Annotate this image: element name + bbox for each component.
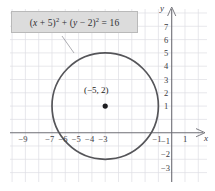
x-tick--4: −4 xyxy=(85,135,94,144)
y-tick--2: −2 xyxy=(161,150,170,159)
x-tick--6: −6 xyxy=(59,135,68,144)
y-axis-label: y xyxy=(160,4,164,13)
x-tick-1: 1 xyxy=(183,135,187,144)
y-tick-6: 6 xyxy=(164,36,168,45)
grid-vertical-lines xyxy=(12,9,198,182)
y-tick-1: 1 xyxy=(164,102,168,111)
y-tick-7: 7 xyxy=(164,23,168,32)
y-tick--3: −3 xyxy=(161,164,170,173)
label-leader-line xyxy=(62,36,74,53)
x-axis-label: x xyxy=(204,134,208,143)
x-tick--3: −3 xyxy=(98,135,107,144)
equation-label-box: (x + 5)2 + (y − 2)2 = 16 xyxy=(11,11,138,33)
y-tick--1: −1 xyxy=(161,137,170,146)
equation-label-text: (x + 5)2 + (y − 2)2 = 16 xyxy=(30,16,119,28)
y-tick-2: 2 xyxy=(164,89,168,98)
x-axis xyxy=(10,129,205,137)
circle-graph-figure: (x + 5)2 + (y − 2)2 = 16 (−5, 2) y x −9 … xyxy=(0,0,215,191)
y-tick-3: 3 xyxy=(164,76,168,85)
x-tick--5: −5 xyxy=(72,135,81,144)
center-point-dot xyxy=(103,104,108,109)
center-point-label: (−5, 2) xyxy=(84,86,109,95)
y-tick-5: 5 xyxy=(164,49,168,58)
x-tick--9: −9 xyxy=(19,135,28,144)
x-tick--7: −7 xyxy=(45,135,54,144)
y-tick-4: 4 xyxy=(164,62,168,71)
